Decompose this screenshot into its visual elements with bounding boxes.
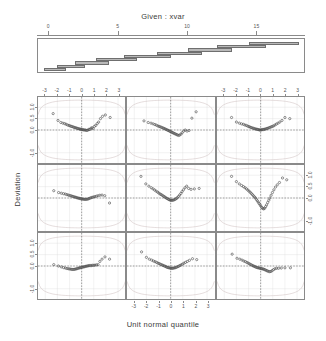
x-tick-mark <box>248 94 249 97</box>
x-tick-label: -3 <box>132 303 136 309</box>
x-tick-label: 1 <box>271 87 274 93</box>
given-axis-tick-label: 5 <box>116 23 119 29</box>
qq-panel <box>126 96 215 164</box>
y-tick-mark <box>306 198 309 199</box>
x-tick-mark <box>208 301 209 304</box>
x-tick-label: 0 <box>170 303 173 309</box>
x-axis-title: Unit normal quantile <box>0 320 326 329</box>
qq-panel-canvas <box>127 233 214 299</box>
x-tick-label: 1 <box>182 303 185 309</box>
x-tick-mark <box>183 301 184 304</box>
shingle-interval-bar <box>124 55 171 58</box>
x-tick-label: -3 <box>42 87 46 93</box>
qq-panel-canvas <box>217 97 304 163</box>
y-tick-mark <box>306 186 309 187</box>
shingle-interval-bar <box>75 61 108 64</box>
x-tick-mark <box>260 94 261 97</box>
x-tick-label: 3 <box>117 87 120 93</box>
x-tick-mark <box>146 301 147 304</box>
qq-panel <box>126 164 215 232</box>
qq-panel <box>216 96 305 164</box>
x-tick-label: -2 <box>233 87 237 93</box>
shingle-interval-bar <box>44 68 66 71</box>
shingle-interval-bar <box>249 42 299 45</box>
y-axis-title: Deviation <box>13 135 22 245</box>
given-axis-tick-label: 10 <box>184 23 190 29</box>
x-tick-label: 3 <box>207 303 210 309</box>
x-tick-mark <box>285 94 286 97</box>
qq-panel-canvas <box>217 233 304 299</box>
x-tick-label: -3 <box>221 87 225 93</box>
shingle-interval-bar <box>188 48 232 51</box>
given-axis-line <box>37 35 305 36</box>
y-tick-mark <box>35 289 38 290</box>
y-tick-mark <box>306 221 309 222</box>
shingle-interval-bar <box>96 58 136 61</box>
qq-panel <box>37 96 126 164</box>
x-tick-label: 0 <box>80 87 83 93</box>
shingle-interval-bar <box>157 52 201 55</box>
coplot-figure: Given : xvar 051015 -3-2-10123-3-2-10123… <box>0 0 326 341</box>
x-tick-mark <box>69 94 70 97</box>
x-tick-label: -1 <box>67 87 71 93</box>
x-tick-label: -1 <box>246 87 250 93</box>
x-tick-label: 2 <box>194 303 197 309</box>
y-tick-mark <box>306 175 309 176</box>
x-tick-mark <box>171 301 172 304</box>
y-tick-mark <box>35 107 38 108</box>
y-tick-mark <box>35 118 38 119</box>
qq-panel <box>37 164 126 232</box>
given-panel-title: Given : xvar <box>0 12 326 21</box>
x-tick-label: 2 <box>284 87 287 93</box>
x-tick-mark <box>298 94 299 97</box>
x-tick-mark <box>82 94 83 97</box>
qq-panel <box>216 232 305 300</box>
x-tick-mark <box>273 94 274 97</box>
x-tick-label: 0 <box>259 87 262 93</box>
shingle-interval-bar <box>217 45 266 48</box>
given-axis-tick-label: 15 <box>254 23 260 29</box>
x-tick-mark <box>94 94 95 97</box>
qq-panel <box>37 232 126 300</box>
panel-grid: -3-2-10123-3-2-10123-3-2-10123-1.00.00.5… <box>37 96 305 300</box>
qq-panel-canvas <box>38 233 125 299</box>
qq-panel-canvas <box>38 97 125 163</box>
x-tick-mark <box>196 301 197 304</box>
x-tick-mark <box>134 301 135 304</box>
x-tick-mark <box>236 94 237 97</box>
y-tick-mark <box>35 266 38 267</box>
y-tick-mark <box>35 130 38 131</box>
qq-panel-canvas <box>127 97 214 163</box>
x-tick-label: -2 <box>144 303 148 309</box>
x-tick-mark <box>119 94 120 97</box>
y-tick-mark <box>35 153 38 154</box>
qq-panel-canvas <box>127 165 214 231</box>
x-tick-mark <box>44 94 45 97</box>
qq-panel-canvas <box>217 165 304 231</box>
x-tick-mark <box>57 94 58 97</box>
x-tick-mark <box>223 94 224 97</box>
x-tick-label: 3 <box>296 87 299 93</box>
given-axis: 051015 <box>37 31 305 38</box>
x-tick-label: 2 <box>105 87 108 93</box>
qq-panel-canvas <box>38 165 125 231</box>
given-shingle-panel <box>37 38 305 73</box>
given-axis-tick-label: 0 <box>47 23 50 29</box>
x-tick-mark <box>159 301 160 304</box>
y-tick-mark <box>35 254 38 255</box>
y-tick-mark <box>35 243 38 244</box>
x-tick-label: -1 <box>156 303 160 309</box>
qq-panel <box>216 164 305 232</box>
qq-panel <box>126 232 215 300</box>
x-tick-mark <box>106 94 107 97</box>
shingle-interval-bar <box>57 65 85 68</box>
x-tick-label: -2 <box>55 87 59 93</box>
x-tick-label: 1 <box>93 87 96 93</box>
